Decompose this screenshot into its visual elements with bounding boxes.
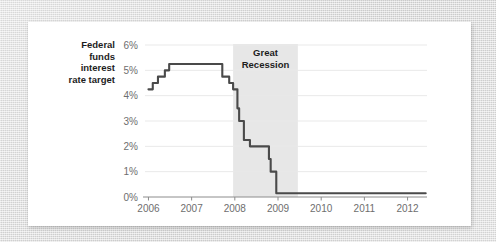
- recession-label-line: Recession: [242, 59, 290, 70]
- x-tick-label: 2007: [181, 203, 204, 214]
- y-tick-label: 4%: [124, 90, 139, 101]
- x-tick-label: 2012: [396, 203, 419, 214]
- series-label-line: rate target: [69, 74, 116, 85]
- x-tick-label: 2008: [224, 203, 247, 214]
- x-tick-label: 2011: [354, 203, 376, 214]
- series-label-line: funds: [89, 51, 115, 62]
- x-axis-tick-labels: 2006200720082009201020112012: [137, 203, 419, 214]
- figure-card: 0%1%2%3%4%5%6% 2006200720082009201020112…: [28, 22, 471, 226]
- y-tick-label: 1%: [124, 166, 139, 177]
- series-label: Federalfundsinterestrate target: [69, 39, 116, 85]
- x-tick-label: 2009: [267, 203, 290, 214]
- recession-label-line: Great: [253, 47, 279, 58]
- x-tick-label: 2010: [310, 203, 333, 214]
- x-axis-ticks: [148, 197, 407, 201]
- chart-canvas: 0%1%2%3%4%5%6% 2006200720082009201020112…: [28, 22, 471, 226]
- y-axis-tick-labels: 0%1%2%3%4%5%6%: [124, 40, 139, 203]
- y-tick-label: 2%: [124, 141, 139, 152]
- y-tick-label: 5%: [124, 65, 139, 76]
- series-label-line: interest: [81, 62, 116, 73]
- x-tick-label: 2006: [137, 203, 160, 214]
- y-tick-label: 0%: [124, 192, 139, 203]
- y-tick-label: 3%: [124, 116, 139, 127]
- series-label-line: Federal: [81, 39, 115, 50]
- y-tick-label: 6%: [124, 40, 139, 51]
- line-chart: 0%1%2%3%4%5%6% 2006200720082009201020112…: [28, 22, 471, 226]
